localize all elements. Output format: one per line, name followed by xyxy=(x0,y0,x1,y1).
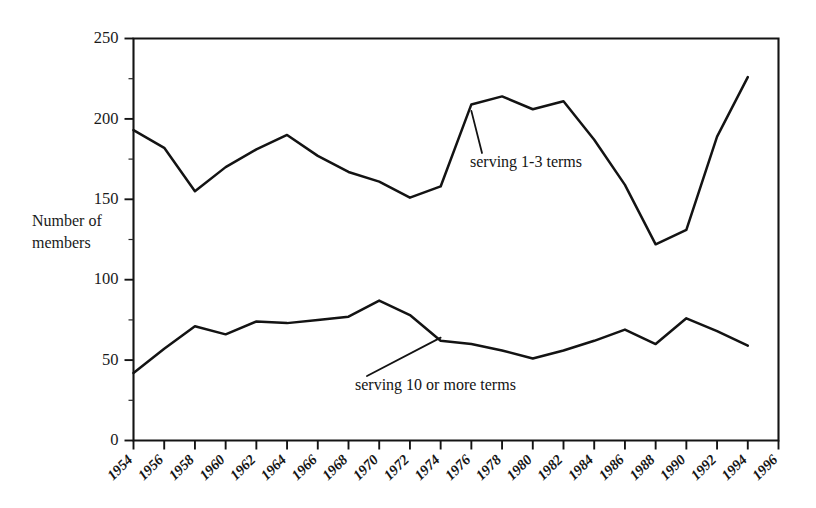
chart-container: 050100150200250 195419561958196019621964… xyxy=(0,0,816,508)
y-tick-label: 0 xyxy=(110,430,118,449)
y-tick-label: 200 xyxy=(94,109,119,128)
y-axis-label-line1: Number of xyxy=(32,212,102,229)
y-tick-label: 50 xyxy=(102,350,119,369)
y-axis-label-line2: members xyxy=(32,234,91,251)
y-tick-label: 100 xyxy=(94,269,119,288)
annotation-label: serving 10 or more terms xyxy=(355,376,516,394)
y-tick-label: 250 xyxy=(94,28,119,47)
y-tick-label: 150 xyxy=(94,189,119,208)
line-chart: 050100150200250 195419561958196019621964… xyxy=(0,0,816,508)
chart-background xyxy=(0,0,816,508)
annotation-label: serving 1-3 terms xyxy=(470,153,582,171)
